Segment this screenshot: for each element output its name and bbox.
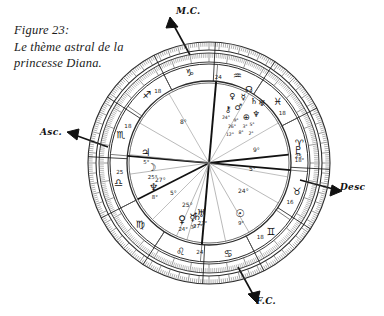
rim-tick [235,276,236,280]
rim-tick [311,104,315,106]
band-tick [100,150,105,151]
degree-note-4: 9° [253,146,260,153]
band-tick [112,212,116,214]
band-tick [138,79,144,86]
band-tick [154,68,159,76]
rim-tick [160,52,162,56]
rim-tick [318,205,322,207]
band-tick [303,211,307,213]
band-tick [157,66,159,70]
rim-tick [94,126,98,127]
band-tick [121,226,125,229]
aspect-line [169,94,209,163]
zodiac-sign-aquarius: ♒ [233,70,242,81]
stellium-glyph-0: ♀ [229,91,235,101]
rim-tick [318,120,322,122]
rim-tick [248,49,251,57]
rim-tick [277,65,280,69]
rim-tick [92,191,96,192]
rim-tick [95,202,103,205]
band-tick [297,103,301,106]
rim-tick [307,103,314,107]
band-tick [222,267,223,272]
band-tick [260,250,265,258]
band-tick [274,79,280,86]
rim-tick [89,177,94,178]
band-tick [135,241,138,245]
rim-tick [285,72,288,75]
band-tick [102,136,107,137]
rim-tick [90,185,95,186]
band-tick [311,188,316,189]
rim-tick [282,70,287,76]
rim-tick [198,42,199,50]
band-tick [117,220,121,223]
band-tick [295,100,299,103]
band-tick [129,88,133,91]
band-tick [293,226,297,229]
rim-tick [198,276,199,284]
band-tick [104,196,109,197]
band-tick [238,57,239,62]
rim-tick [128,250,131,253]
rim-tick [135,68,138,72]
rim-tick [320,197,324,198]
rim-tick [182,276,183,280]
band-tick [311,135,316,136]
house-cusp [281,118,297,126]
band-tick [119,223,123,226]
band-tick [298,105,302,108]
rim-tick [110,228,117,233]
band-tick [286,92,293,98]
rim-tick [162,270,164,274]
rim-tick [164,51,166,55]
band-tick [302,111,306,113]
rim-tick [125,76,128,79]
band-tick [233,56,234,61]
rim-tick [282,69,285,73]
band-tick [257,65,259,69]
rim-tick [131,250,136,256]
band-tick [166,62,168,66]
band-tick [231,266,232,271]
planet-degree-pluto: 18° [295,157,305,163]
band-tick [115,106,119,108]
band-tick [120,225,124,228]
rim-tick [150,57,152,61]
rim-tick [247,49,248,53]
rim-tick [95,201,99,202]
band-tick [188,266,189,271]
rim-tick [227,278,228,283]
band-tick [236,57,237,62]
band-tick [168,261,170,265]
rim-tick [102,218,106,220]
rim-tick [317,207,321,209]
rim-tick [306,95,310,98]
rim-tick [180,276,181,280]
rim-tick [312,218,316,220]
band-tick [306,204,310,206]
rim-tick [294,242,297,245]
house-cusp [110,154,128,156]
band-tick [313,146,318,147]
band-tick [231,55,232,60]
rim-tick [253,51,255,55]
degree-note-3: 24° [238,187,249,194]
band-tick [186,55,187,60]
rim-tick [223,43,224,48]
band-tick [224,54,225,59]
rim-tick [271,262,273,266]
rim-tick [315,114,319,116]
band-tick [101,142,106,143]
rim-tick [109,228,113,231]
band-tick [182,56,183,61]
rim-tick [192,278,193,283]
degree-note-6: 8° [180,118,187,125]
rim-tick [322,136,326,137]
band-tick [164,63,166,67]
planet-pluto: ♇18° [294,144,305,163]
rim-tick [269,263,271,267]
rim-tick [88,173,96,174]
band-tick [122,95,126,98]
rim-tick [147,59,149,63]
